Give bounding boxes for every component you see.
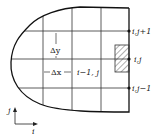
finite-difference-grid-diagram: i,j+1 i,j i,j−1 Δy Δx i−1, j j i — [0, 0, 156, 139]
hatched-control-volume — [115, 45, 129, 72]
label-neighbor-node: i−1, j — [77, 68, 99, 77]
node-bottom — [127, 86, 130, 89]
label-node-mid: i,j — [134, 55, 142, 64]
delta-y-dimension: Δy — [50, 33, 61, 58]
label-delta-x: Δx — [51, 68, 62, 77]
axis-i-label: i — [32, 127, 35, 136]
domain-boundary — [11, 7, 129, 112]
node-mid — [127, 57, 130, 60]
label-node-bottom: i,j−1 — [132, 84, 151, 93]
node-top — [127, 29, 130, 32]
delta-x-dimension: Δx — [44, 68, 71, 77]
label-node-top: i,j+1 — [132, 27, 151, 36]
label-delta-y: Δy — [50, 46, 61, 55]
axis-indicator: j i — [6, 106, 38, 136]
axis-j-label: j — [6, 106, 11, 115]
